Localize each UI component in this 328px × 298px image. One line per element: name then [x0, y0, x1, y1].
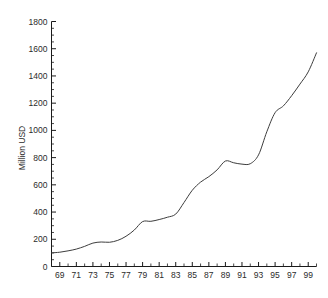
y-axis-tick-label: 400 — [33, 207, 47, 217]
y-axis-tick-label: 0 — [43, 262, 48, 272]
x-axis-tick-label: 79 — [138, 270, 148, 280]
x-axis-tick-label: 77 — [121, 270, 131, 280]
y-axis-tick-label: 1800 — [29, 17, 48, 27]
x-axis-tick-label: 87 — [204, 270, 214, 280]
y-axis-tick-label: 600 — [33, 180, 47, 190]
y-axis-tick-label: 1400 — [29, 71, 48, 81]
x-axis-tick-label: 89 — [221, 270, 231, 280]
chart-canvas: 020040060080010001200140016001800 697173… — [0, 0, 328, 298]
y-axis-tick-label: 1600 — [29, 44, 48, 54]
x-axis-tick-label: 81 — [154, 270, 164, 280]
x-axis-tick-label: 75 — [105, 270, 115, 280]
x-axis-tick-label: 83 — [171, 270, 181, 280]
x-axis-tick-label: 95 — [270, 270, 280, 280]
x-axis-tick-label: 85 — [188, 270, 198, 280]
line-chart: 020040060080010001200140016001800 697173… — [0, 0, 328, 298]
x-axis-tick-label: 71 — [72, 270, 82, 280]
y-axis-tick-label: 800 — [33, 153, 47, 163]
x-axis-tick-label: 73 — [88, 270, 98, 280]
x-axis-tick-label: 93 — [254, 270, 264, 280]
x-axis-tick-label: 91 — [237, 270, 247, 280]
x-axis-tick-label: 69 — [55, 270, 65, 280]
x-axis-tick-label: 99 — [303, 270, 313, 280]
x-axis-tick-label: 97 — [287, 270, 297, 280]
y-axis-title: Million USD — [17, 126, 27, 170]
y-axis-tick-label: 1000 — [29, 125, 48, 135]
y-axis-tick-label: 1200 — [29, 98, 48, 108]
y-axis-tick-label: 200 — [33, 234, 47, 244]
chart-background — [0, 0, 328, 298]
